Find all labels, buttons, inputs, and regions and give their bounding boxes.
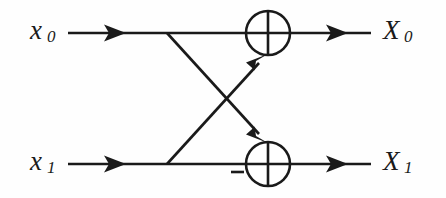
label-input-top-subscript: 0: [47, 27, 56, 46]
label-output-top-base: X: [382, 15, 401, 45]
label-output-top-subscript: 0: [404, 27, 413, 46]
arrowhead-cross-up: [246, 54, 268, 71]
label-input-bottom-subscript: 1: [47, 158, 56, 177]
label-input-bottom-base: x: [29, 146, 42, 176]
label-output-bottom-base: X: [382, 146, 401, 176]
wire-cross-up: [167, 63, 259, 164]
arrowhead-cross-down: [246, 127, 268, 144]
label-input-top-base: x: [29, 15, 42, 45]
wire-cross-down: [167, 33, 259, 134]
butterfly-diagram-figure: x 0 x 1 X 0 X 1: [0, 0, 446, 198]
label-output-bottom-subscript: 1: [404, 158, 413, 177]
butterfly-diagram-canvas: x 0 x 1 X 0 X 1: [0, 0, 446, 198]
